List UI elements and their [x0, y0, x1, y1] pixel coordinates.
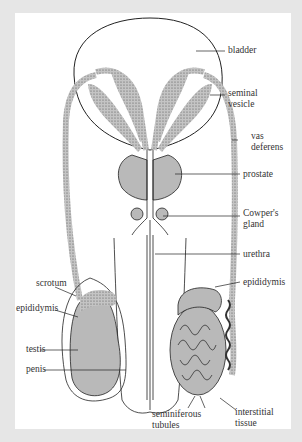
label-penis: penis	[26, 364, 46, 375]
label-interstitial-tissue-2: tissue	[235, 418, 257, 429]
label-vas-deferens-1: vas	[251, 131, 264, 142]
label-interstitial-tissue-1: interstitial	[235, 407, 274, 418]
label-seminiferous-tubules-1: seminiferous	[152, 409, 201, 420]
label-seminal-vesicle-1: seminal	[228, 88, 258, 99]
label-cowpers-gland-1: Cowper's	[243, 208, 279, 219]
label-scrotum: scrotum	[36, 278, 67, 289]
label-seminiferous-tubules-2: tubules	[152, 420, 179, 431]
label-bladder: bladder	[228, 45, 257, 56]
label-cowpers-gland-2: gland	[243, 219, 264, 230]
label-urethra: urethra	[243, 249, 270, 260]
label-epididymis-right: epididymis	[243, 277, 285, 288]
label-testis: testis	[26, 344, 46, 355]
label-epididymis-left: epididymis	[16, 303, 58, 314]
label-prostate: prostate	[243, 169, 273, 180]
label-vas-deferens-2: deferens	[251, 142, 283, 153]
label-seminal-vesicle-2: vesicle	[228, 99, 254, 110]
